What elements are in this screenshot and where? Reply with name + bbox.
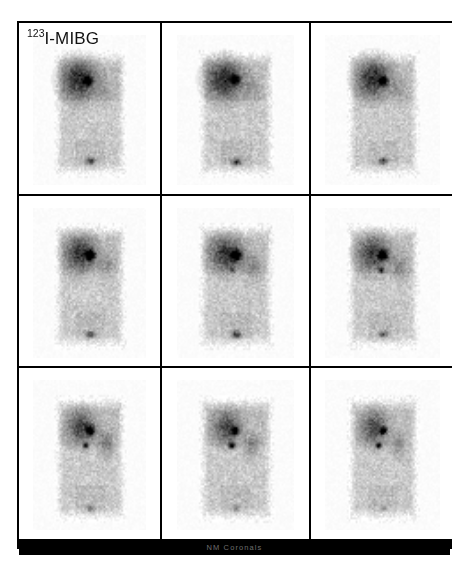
coronal-slice-2[interactable] bbox=[162, 23, 309, 194]
coronal-slice-7[interactable] bbox=[19, 368, 160, 539]
coronal-slice-8[interactable] bbox=[162, 368, 309, 539]
series-label: NM Coronals bbox=[207, 543, 263, 551]
coronal-slice-4[interactable] bbox=[19, 196, 160, 366]
coronal-slice-5[interactable] bbox=[162, 196, 309, 366]
coronal-slice-1[interactable]: 123I-MIBG bbox=[19, 23, 160, 194]
coronal-slice-6[interactable] bbox=[311, 196, 454, 366]
coronal-slice-9[interactable] bbox=[311, 368, 454, 539]
nm-image-viewer: 123I-MIBG NM Coronals bbox=[17, 21, 452, 549]
tracer-title: 123I-MIBG bbox=[27, 27, 99, 49]
series-footer-bar: NM Coronals bbox=[19, 539, 450, 555]
tracer-name: I-MIBG bbox=[45, 29, 99, 48]
coronal-slice-3[interactable] bbox=[311, 23, 454, 194]
coronal-slice-grid: 123I-MIBG bbox=[19, 23, 450, 539]
tracer-mass-number: 123 bbox=[27, 27, 45, 39]
